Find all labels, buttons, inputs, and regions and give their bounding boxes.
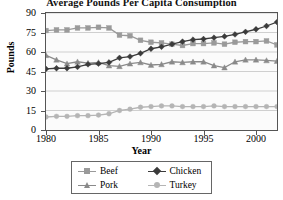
data-point-marker [170,104,175,109]
x-axis-label: Year [0,145,283,156]
data-point-marker [46,66,49,72]
x-tick-label: 1980 [26,134,66,144]
x-tick-mark [151,131,152,135]
plot-area [45,12,278,131]
data-point-marker [180,104,185,109]
data-point-marker [75,26,80,31]
plot-svg [46,13,277,130]
data-point-marker [46,115,48,120]
data-point-marker [86,113,91,118]
legend-label-pork: Pork [96,180,118,190]
data-point-marker [233,104,238,109]
x-tick-label: 1995 [184,134,224,144]
data-point-marker [65,28,70,33]
data-point-marker [191,104,196,109]
legend-label-turkey: Turkey [166,180,197,190]
x-tick-label: 1990 [131,134,171,144]
x-tick-label: 2000 [236,134,276,144]
data-point-marker [127,54,133,60]
legend-row: Beef Chicken [72,164,211,178]
data-point-marker [54,65,60,71]
data-point-marker [75,113,80,118]
turkey-marker-icon [148,180,166,190]
data-point-marker [138,38,143,43]
data-point-marker [54,114,59,119]
data-point-marker [117,33,122,38]
data-point-marker [222,42,227,47]
x-tick-mark [99,131,100,135]
x-tick-label: 1985 [79,134,119,144]
data-point-marker [117,55,123,61]
data-point-marker [138,50,144,56]
data-point-marker [211,35,217,41]
chart-legend: Beef Chicken Pork Turkey [71,161,212,194]
data-point-marker [264,39,269,44]
y-tick-label: 45 [0,67,36,77]
data-point-marker [117,108,122,113]
y-tick-label: 60 [0,47,36,57]
data-point-marker [243,29,249,35]
legend-item-pork[interactable]: Pork [72,180,142,190]
beef-marker-icon [78,166,96,176]
x-tick-mark [204,131,205,135]
legend-item-beef[interactable]: Beef [72,166,142,176]
legend-item-turkey[interactable]: Turkey [142,180,212,190]
chart-title: Average Pounds Per Capita Consumption [0,0,283,8]
data-point-marker [275,42,277,47]
y-tick-label: 75 [0,28,36,38]
data-point-marker [46,28,48,33]
legend-row: Pork Turkey [72,178,211,192]
data-point-marker [128,107,133,112]
legend-item-chicken[interactable]: Chicken [142,166,212,176]
x-tick-mark [46,131,47,135]
series-turkey [46,104,277,120]
data-point-marker [96,61,102,67]
data-point-marker [46,52,49,57]
data-point-marker [222,104,227,109]
y-tick-label: 90 [0,8,36,18]
chicken-marker-icon [148,166,166,176]
y-tick-label: 30 [0,86,36,96]
data-point-marker [201,104,206,109]
data-point-marker [138,105,143,110]
data-point-marker [107,111,112,116]
data-point-marker [148,46,154,52]
legend-label-beef: Beef [96,166,118,176]
data-point-marker [149,104,154,109]
data-point-marker [222,34,228,40]
data-point-marker [254,104,259,109]
data-point-marker [264,104,269,109]
data-point-marker [264,23,270,29]
data-point-marker [75,64,81,70]
data-point-marker [96,25,101,30]
data-point-marker [128,33,133,38]
data-point-marker [65,114,70,119]
data-point-marker [212,104,217,109]
data-point-marker [274,19,277,25]
series-pork [46,52,277,70]
x-tick-mark [256,131,257,135]
data-point-marker [212,41,217,46]
data-point-marker [253,26,259,32]
data-point-marker [275,104,277,109]
data-point-marker [96,113,101,118]
y-tick-label: 15 [0,106,36,116]
data-point-marker [159,104,164,109]
data-point-marker [54,28,59,33]
data-point-marker [254,39,259,44]
chart-container: Average Pounds Per Capita Consumption Po… [0,0,283,200]
legend-label-chicken: Chicken [166,166,202,176]
data-point-marker [107,26,112,31]
data-point-marker [243,104,248,109]
data-point-marker [86,26,91,31]
pork-marker-icon [78,180,96,190]
data-point-marker [149,40,154,45]
data-point-marker [233,40,238,45]
data-point-marker [243,39,248,44]
